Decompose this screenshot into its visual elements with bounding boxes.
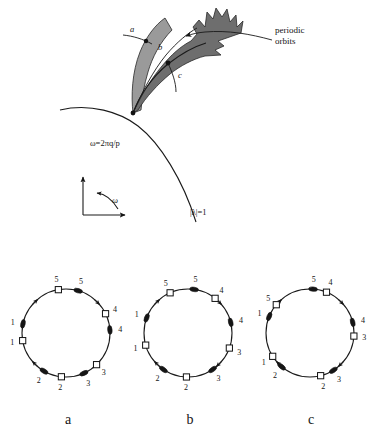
marker-label-dot-1: 1 bbox=[257, 309, 261, 318]
omega-axis-label: ω bbox=[112, 195, 118, 205]
marker-square-4 bbox=[323, 289, 329, 295]
figure-canvas: a b c periodic orbits ω=2πq/p |λ|=1 ω bbox=[0, 0, 383, 436]
top-panel: a b c periodic orbits ω=2πq/p |λ|=1 ω bbox=[60, 8, 305, 222]
marker-label-square-5: 5 bbox=[266, 294, 270, 303]
marker-dot-2 bbox=[159, 365, 169, 374]
marker-square-1 bbox=[143, 342, 149, 348]
periodic-orbits-label-line1: periodic bbox=[275, 25, 305, 35]
flow-arrow bbox=[154, 361, 159, 366]
marker-square-5 bbox=[273, 302, 279, 308]
resonance-condition-label: ω=2πq/p bbox=[90, 138, 120, 148]
marker-label-square-4: 4 bbox=[328, 278, 332, 287]
flow-arrow bbox=[154, 299, 159, 304]
marker-dot-1 bbox=[143, 313, 150, 323]
figure-root: a b c periodic orbits ω=2πq/p |λ|=1 ω bbox=[0, 0, 383, 436]
marker-square-5 bbox=[167, 290, 173, 296]
marker-dot-4 bbox=[107, 325, 112, 334]
marker-square-4 bbox=[102, 311, 108, 317]
flow-arrow bbox=[216, 361, 221, 366]
marker-dot-2 bbox=[277, 362, 287, 371]
unit-circle-label: |λ|=1 bbox=[190, 207, 207, 217]
marker-dot-5 bbox=[73, 287, 83, 294]
marker-dot-4 bbox=[349, 318, 355, 328]
marker-label-dot-4: 4 bbox=[361, 316, 365, 325]
marker-dot-1 bbox=[266, 312, 273, 322]
marker-label-dot-4: 4 bbox=[239, 316, 243, 325]
flow-arrow bbox=[338, 299, 343, 304]
marker-dot-3 bbox=[208, 365, 218, 374]
marker-dot-1 bbox=[20, 319, 26, 329]
marker-square-5 bbox=[55, 287, 61, 293]
flow-arrow bbox=[32, 361, 37, 366]
flow-arrow bbox=[32, 299, 37, 304]
marker-label-dot-1: 1 bbox=[11, 318, 15, 327]
section-label-a: a bbox=[130, 24, 134, 34]
marker-label-square-2: 2 bbox=[58, 383, 62, 392]
circle-diagram-a: 1122334455 bbox=[10, 275, 122, 392]
marker-square-2 bbox=[58, 374, 64, 380]
flow-arrow bbox=[338, 361, 343, 366]
unit-circle-arc bbox=[60, 108, 196, 222]
flow-arrow bbox=[94, 299, 99, 304]
panel-label-c: c bbox=[308, 412, 314, 427]
marker-square-2 bbox=[318, 373, 324, 379]
panel-label-a: a bbox=[65, 412, 72, 427]
marker-label-dot-3: 3 bbox=[337, 375, 341, 384]
marker-dot-5 bbox=[189, 287, 198, 293]
marker-label-dot-5: 5 bbox=[194, 275, 198, 284]
marker-label-square-5: 5 bbox=[55, 275, 59, 284]
resonance-apex-point bbox=[131, 111, 136, 116]
marker-label-dot-2: 2 bbox=[156, 374, 160, 383]
marker-label-dot-4: 4 bbox=[118, 325, 122, 334]
panel-labels-layer: abc bbox=[65, 412, 314, 427]
marker-dot-3 bbox=[328, 366, 338, 374]
circle-diagram-c: 1122334455 bbox=[257, 275, 366, 391]
marker-label-square-1: 1 bbox=[262, 358, 266, 367]
marker-label-square-3: 3 bbox=[362, 333, 366, 342]
marker-dot-5 bbox=[309, 287, 318, 292]
circle-diagram-b: 1122334455 bbox=[134, 275, 243, 392]
marker-label-square-3: 3 bbox=[237, 348, 241, 357]
marker-label-square-3: 3 bbox=[102, 368, 106, 377]
marker-square-1 bbox=[20, 338, 26, 344]
marker-label-dot-5: 5 bbox=[312, 275, 316, 284]
marker-square-4 bbox=[212, 295, 218, 301]
marker-label-dot-2: 2 bbox=[37, 376, 41, 385]
marker-label-square-2: 2 bbox=[184, 383, 188, 392]
marker-label-square-2: 2 bbox=[321, 382, 325, 391]
marker-label-dot-1: 1 bbox=[135, 310, 139, 319]
marker-label-square-4: 4 bbox=[220, 286, 224, 295]
circle-diagrams-layer: 112233445511223344551122334455 bbox=[10, 275, 366, 393]
marker-label-square-5: 5 bbox=[164, 279, 168, 288]
marker-dot-4 bbox=[227, 318, 233, 328]
marker-label-dot-5: 5 bbox=[79, 277, 83, 286]
marker-dot-2 bbox=[39, 367, 49, 375]
marker-label-square-4: 4 bbox=[113, 305, 117, 314]
periodic-orbits-label-line2: orbits bbox=[275, 36, 296, 46]
section-label-b: b bbox=[158, 42, 162, 52]
marker-label-square-1: 1 bbox=[134, 344, 138, 353]
marker-square-3 bbox=[226, 345, 232, 351]
marker-square-2 bbox=[183, 374, 189, 380]
marker-label-dot-2: 2 bbox=[273, 371, 277, 380]
panel-label-b: b bbox=[187, 412, 194, 427]
marker-square-1 bbox=[270, 353, 276, 359]
marker-label-dot-3: 3 bbox=[216, 374, 220, 383]
marker-dot-3 bbox=[79, 369, 89, 377]
section-label-c: c bbox=[178, 70, 182, 80]
axes-glyph: ω bbox=[83, 177, 125, 215]
marker-square-3 bbox=[351, 333, 357, 339]
section-point-a bbox=[144, 39, 148, 43]
marker-label-square-1: 1 bbox=[10, 338, 14, 347]
marker-square-3 bbox=[93, 362, 99, 368]
marker-label-dot-3: 3 bbox=[86, 379, 90, 388]
